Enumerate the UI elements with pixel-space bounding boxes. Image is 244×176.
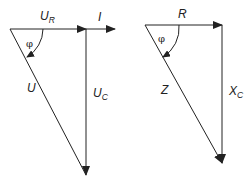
uc-label: U [93,86,102,100]
xc-subscript: C [237,90,244,100]
phasor-diagrams: UR I U UC φ R Z XC φ [0,0,244,176]
phi-arc [163,25,179,57]
u-label: U [27,81,36,95]
svg-text:UC: UC [93,86,109,102]
phi-label-left: φ [26,38,33,49]
i-label: I [98,10,102,24]
phi-label-right: φ [158,33,165,44]
uc-subscript: C [102,92,109,102]
svg-text:UR: UR [40,9,55,25]
impedance-triangle: R Z XC φ [145,7,244,163]
z-vector [145,25,222,163]
z-label: Z [160,83,169,97]
ur-subscript: R [49,15,55,25]
svg-text:XC: XC [228,84,244,100]
voltage-triangle: UR I U UC φ [10,9,115,175]
u-vector [10,29,86,175]
r-label: R [178,7,187,21]
ur-label: U [40,9,49,23]
